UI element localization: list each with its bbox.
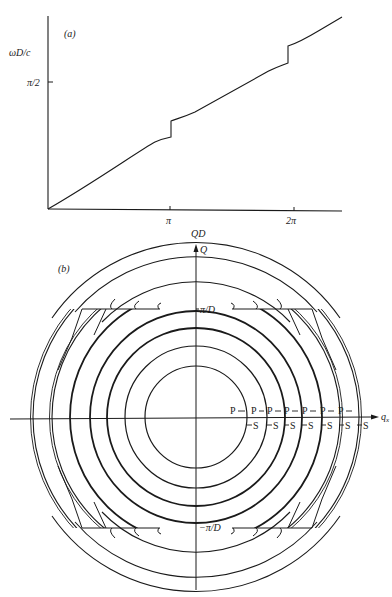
p-label: P (302, 405, 308, 416)
p-label: P (230, 405, 236, 416)
p-labels: P P P P P P P (230, 405, 352, 416)
lower-boundary-label: −π/D (199, 522, 222, 533)
s-label: S (345, 420, 351, 431)
panel-a-x-axis (48, 209, 342, 211)
s-label: S (363, 420, 369, 431)
panel-a-label: (a) (64, 28, 76, 40)
p-label: P (338, 405, 344, 416)
panel-a-y-tick-label: π/2 (27, 77, 40, 88)
s-label: S (253, 420, 259, 431)
s-label: S (327, 420, 333, 431)
p-label: P (320, 405, 326, 416)
upper-boundary-label: π/D (200, 304, 216, 315)
panel-a-x-tick-label-pi: π (166, 215, 172, 226)
qy-axis-arrow-icon (194, 244, 199, 252)
s-labels: S S S S S S S (247, 420, 369, 431)
qx-axis-arrow-icon (371, 415, 379, 420)
p-label: P (284, 405, 290, 416)
s-label: S (308, 420, 314, 431)
qx-axis-label: qx (381, 411, 390, 424)
s-label: S (273, 420, 279, 431)
panel-b-top-label: QD (191, 228, 206, 239)
s-label: S (290, 420, 296, 431)
panel-a-y-axis-label: ωD/c (9, 47, 31, 58)
p-label: P (267, 405, 273, 416)
dispersion-curve (48, 17, 342, 209)
qy-axis-label: Q (200, 244, 208, 255)
qx-axis (10, 417, 372, 419)
figure: (a) ωD/c π/2 π 2π (b) QD Q qx (0, 0, 392, 597)
panel-b: (b) QD Q qx (10, 228, 390, 592)
p-label: P (251, 405, 257, 416)
panel-b-label: (b) (58, 263, 70, 275)
panel-a: (a) ωD/c π/2 π 2π (9, 16, 342, 226)
panel-a-x-tick-label-2pi: 2π (286, 215, 297, 226)
